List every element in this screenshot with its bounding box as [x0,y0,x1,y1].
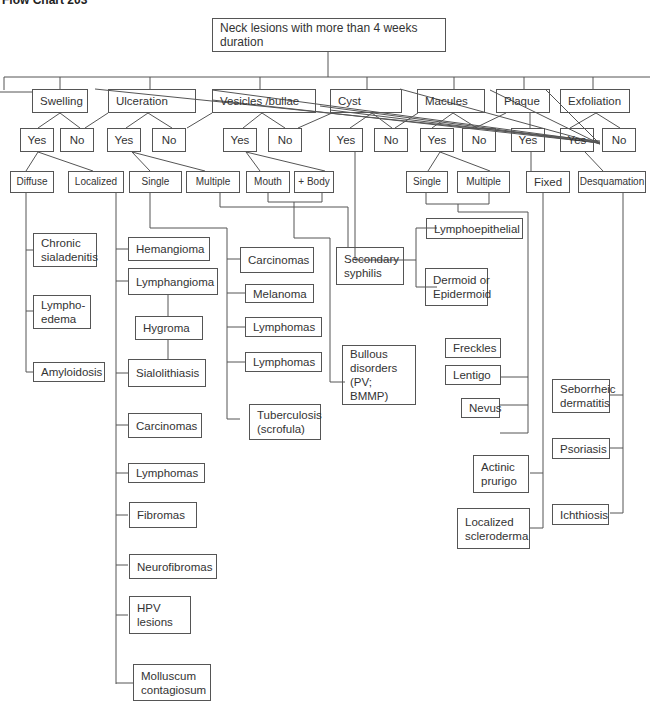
swelling-yes: Yes [20,128,54,152]
leaf-hygroma: Hygroma [135,316,203,340]
leaf-nevus: Nevus [461,398,500,418]
exfoliation-yes: Yes [560,128,594,152]
leaf-psoriasis: Psoriasis [552,438,610,459]
macules-no: No [462,128,496,152]
mouth-node: Mouth [246,171,290,193]
category-cyst: Cyst [330,89,402,113]
leaf-chronic-sialadenitis: Chronic sialadenitis [33,233,97,267]
leaf-hemangioma: Hemangioma [128,237,210,261]
vesicles-yes: Yes [223,128,257,152]
leaf-sialolithiasis: Sialolithiasis [128,359,206,387]
leaf-tuberculosis: Tuberculosis (scrofula) [249,404,321,440]
leaf-fibromas: Fibromas [129,502,197,528]
leaf-localized-lymphomas: Lymphomas [128,463,205,483]
shared-no: No [602,128,636,152]
leaf-secondary-syphilis: Secondary syphilis [336,247,404,285]
category-exfoliation: Exfoliation [560,89,630,113]
leaf-melanoma: Melanoma [245,284,314,303]
plaque-yes: Yes [511,128,545,152]
category-ulceration: Ulceration [108,89,196,113]
leaf-freckles: Freckles [445,338,501,358]
macules-single-node: Single [406,171,448,193]
leaf-amyloidosis: Amyloidosis [33,362,105,382]
swelling-no: No [60,128,94,152]
macules-yes: Yes [420,128,454,152]
leaf-ichthiosis: Ichthiosis [552,504,609,525]
leaf-actinic-prurigo: Actinic prurigo [473,455,529,493]
leaf-bullous-disorders: Bullous disorders (PV; BMMP) [342,345,416,405]
fixed-node: Fixed [526,171,570,193]
category-swelling: Swelling [32,89,88,113]
leaf-lymphoepithelial: Lymphoepithelial [426,218,523,239]
cyst-yes: Yes [329,128,363,152]
ulceration-no: No [152,128,186,152]
root-node: Neck lesions with more than 4 weeks dura… [212,18,446,52]
leaf-lymphoedema: Lympho- edema [33,295,91,329]
ulceration-single-node: Single [129,171,182,193]
leaf-localized-carcinomas: Carcinomas [128,413,202,438]
leaf-lentigo: Lentigo [445,365,501,385]
category-macules: Macules [417,89,485,113]
connector-lines [0,0,651,702]
leaf-neurofibromas: Neurofibromas [129,554,217,579]
leaf-dermoid: Dermoid or Epidermoid [425,268,488,306]
leaf-ulceration-lymphomas-2: Lymphomas [245,352,322,372]
plus-body-node: + Body [294,171,334,193]
macules-multiple-node: Multiple [457,171,510,193]
desquamation-node: Desquamation [578,171,646,193]
leaf-lymphangioma: Lymphangioma [128,268,218,295]
leaf-hpv-lesions: HPV lesions [129,596,191,634]
category-vesicles: Vesicles /bullae [212,89,316,113]
cyst-no: No [374,128,408,152]
ulceration-yes: Yes [107,128,141,152]
leaf-ulceration-lymphomas-1: Lymphomas [245,317,322,337]
leaf-ulceration-carcinomas: Carcinomas [240,247,314,273]
leaf-seborrheic-dermatitis: Seborrheic dermatitis [552,379,610,413]
leaf-localized-scleroderma: Localized scleroderma [457,508,530,549]
flowchart-canvas: Neck lesions with more than 4 weeks dura… [0,0,651,702]
localized-node: Localized [68,171,124,193]
leaf-molluscum: Molluscum contagiosum [133,664,211,701]
category-plaque: Plaque [496,89,550,113]
diffuse-node: Diffuse [10,171,54,193]
ulceration-multiple-node: Multiple [186,171,240,193]
vesicles-no: No [268,128,302,152]
